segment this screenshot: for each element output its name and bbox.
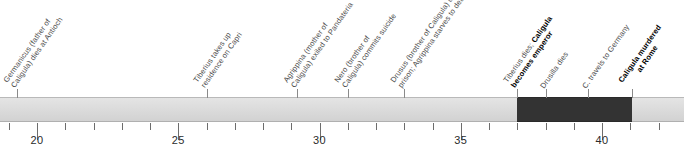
axis-tick-minor	[546, 123, 547, 130]
event-label: Drusus (brother of Caligula) dies inpris…	[389, 0, 474, 90]
axis-tick-label: 40	[596, 134, 609, 146]
axis-tick-minor	[291, 123, 292, 130]
axis-tick-minor	[489, 123, 490, 130]
axis-tick-minor	[235, 123, 236, 130]
event-marker-tick	[17, 89, 18, 98]
event-marker-tick	[632, 89, 633, 98]
axis-tick-minor	[207, 123, 208, 130]
event-marker-tick	[297, 89, 298, 98]
caligula-timeline-chart: Germanicus (father ofCaligula) dies at A…	[0, 0, 684, 160]
timeline-band-caligula-reign	[517, 97, 631, 122]
event-marker-tick	[348, 89, 349, 98]
axis-tick-minor	[404, 123, 405, 130]
event-label: Germanicus (father ofCaligula) dies at A…	[2, 10, 66, 90]
axis-tick-minor	[94, 123, 95, 130]
axis-tick-minor	[9, 123, 10, 130]
axis-tick-minor	[517, 123, 518, 130]
axis-tick-label: 25	[172, 134, 185, 146]
event-marker-tick	[517, 89, 518, 98]
axis-tick-minor	[65, 123, 66, 130]
event-marker-tick	[404, 89, 405, 98]
axis-tick-minor	[574, 123, 575, 130]
event-label: Tiberius takes upresidence on Capri	[191, 26, 244, 90]
event-marker-tick	[207, 89, 208, 98]
axis-tick-minor	[376, 123, 377, 130]
event-label: Drusilla dies	[538, 50, 570, 90]
axis-tick-minor	[433, 123, 434, 130]
axis-tick-minor	[659, 123, 660, 130]
axis-tick-label: 35	[454, 134, 467, 146]
axis-tick-label: 30	[313, 134, 326, 146]
axis-tick-minor	[630, 123, 631, 130]
axis-tick-label: 20	[31, 134, 44, 146]
axis-tick-minor	[348, 123, 349, 130]
axis-tick-minor	[263, 123, 264, 130]
axis-tick-minor	[122, 123, 123, 130]
axis-tick-minor	[150, 123, 151, 130]
